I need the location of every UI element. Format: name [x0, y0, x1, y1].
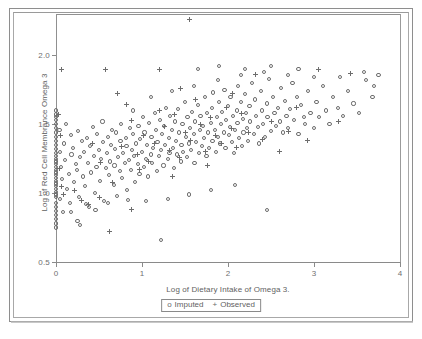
plot-panel-right-edge — [400, 14, 401, 263]
circle-marker-icon: o — [167, 301, 171, 309]
x-axis-tick-label: 1 — [140, 269, 145, 278]
x-axis-tick — [142, 263, 143, 267]
x-axis-tick — [56, 263, 57, 267]
plus-marker-icon: + — [213, 301, 218, 309]
legend-label-imputed: Imputed — [175, 301, 204, 309]
legend-entry-observed: + Observed — [213, 301, 255, 309]
x-axis-tick-label: 3 — [312, 269, 317, 278]
legend-entry-imputed: o Imputed — [167, 301, 203, 309]
plot-panel — [56, 14, 400, 262]
x-axis-tick — [314, 263, 315, 267]
legend: o Imputed + Observed — [161, 299, 261, 312]
y-axis-title: Log of Red Cell Membrance Omega 3 — [40, 23, 49, 263]
x-axis-tick-label: 2 — [226, 269, 231, 278]
x-axis-title: Log of Dietary Intake of Omega 3. — [56, 285, 400, 294]
figure-border-shadow — [11, 321, 413, 323]
y-axis-tick — [52, 55, 56, 56]
x-axis-tick — [400, 263, 401, 267]
y-axis-tick — [52, 193, 56, 194]
x-axis-tick — [228, 263, 229, 267]
y-axis-tick — [52, 262, 56, 263]
legend-label-observed: Observed — [220, 301, 255, 309]
y-axis-tick — [52, 124, 56, 125]
x-axis-tick-label: 0 — [54, 269, 59, 278]
scatter-plot-figure: 012340.51.01.52.0 Log of Dietary Intake … — [0, 0, 422, 339]
x-axis-tick-label: 4 — [398, 269, 403, 278]
